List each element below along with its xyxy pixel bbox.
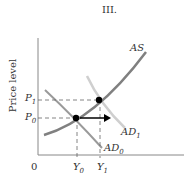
as-curve [44,52,146,135]
y-axis-label: Price level [7,59,18,112]
ad1-label: AD1 [121,126,141,140]
y1-tick-label: Y1 [97,161,108,175]
origin-label: 0 [31,161,37,172]
equilibrium-point-1 [96,97,102,103]
p0-tick-label: P0 [25,111,36,125]
shift-arrow-icon [104,114,111,122]
equilibrium-point-0 [73,115,79,121]
as-label: AS [130,42,144,53]
ad0-label: AD0 [104,142,124,156]
y0-tick-label: Y0 [73,161,84,175]
p1-tick-label: P1 [25,92,36,106]
